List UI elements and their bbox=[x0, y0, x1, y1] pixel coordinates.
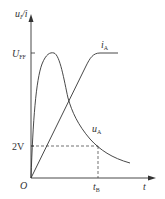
y-axis-label: uI/i bbox=[15, 8, 28, 20]
waveform-diagram: uI/i UFF 2V O tB t iA uA bbox=[0, 0, 165, 199]
origin-label: O bbox=[20, 180, 27, 191]
x-axis-label: t bbox=[143, 181, 146, 192]
y-tick-uff: UFF bbox=[12, 48, 35, 60]
curve-u-a bbox=[31, 53, 130, 178]
y-tick-2v: 2V bbox=[12, 141, 98, 178]
curve-label-u-a: uA bbox=[92, 123, 102, 135]
curve-label-i-a: iA bbox=[101, 39, 109, 51]
x-tick-tb: tB bbox=[93, 181, 100, 193]
y-axis-arrow-icon bbox=[29, 14, 34, 22]
svg-text:2V: 2V bbox=[12, 141, 25, 152]
svg-text:UFF: UFF bbox=[12, 48, 27, 60]
x-axis bbox=[31, 176, 156, 181]
y-axis bbox=[29, 14, 34, 178]
x-axis-arrow-icon bbox=[148, 176, 156, 181]
